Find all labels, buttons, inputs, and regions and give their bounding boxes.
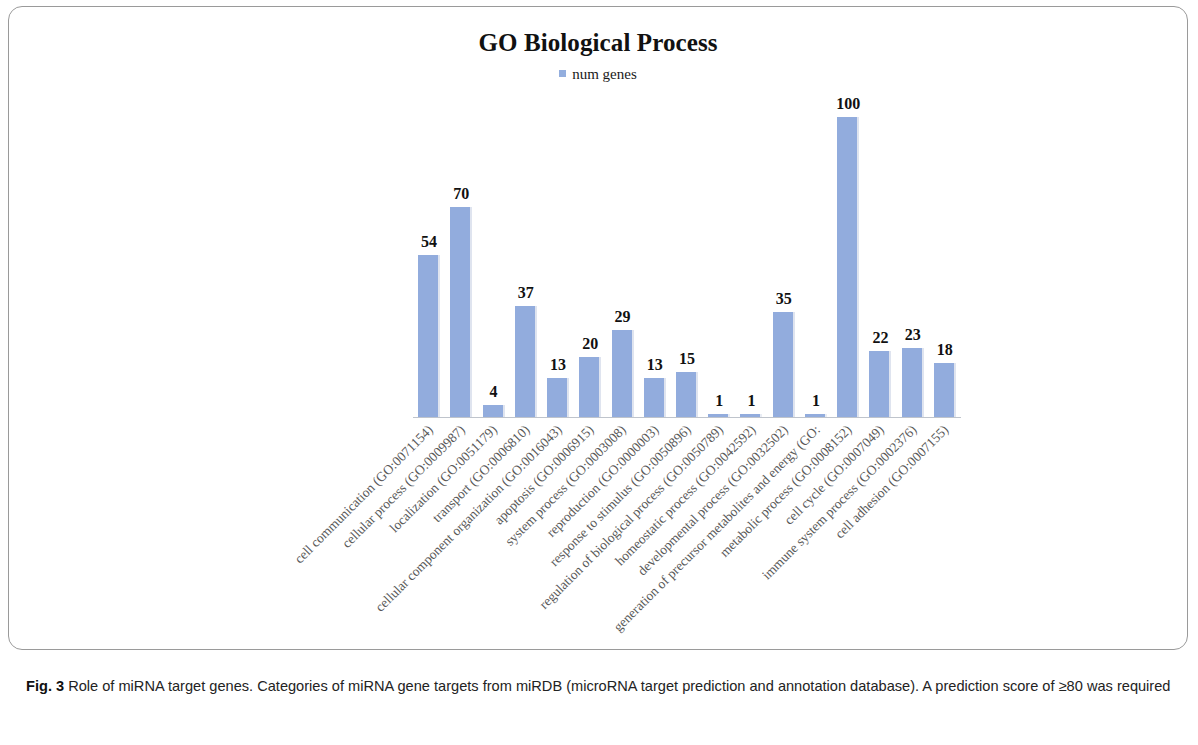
bar-value-label: 1 [715, 393, 723, 409]
bar-slot[interactable]: 35 [768, 93, 800, 417]
figure-caption-label: Fig. 3 [26, 678, 64, 694]
bar[interactable] [450, 207, 472, 417]
bar[interactable] [515, 306, 537, 417]
bar-slot[interactable]: 13 [639, 93, 671, 417]
bar-value-label: 20 [582, 336, 598, 352]
bar-value-label: 15 [679, 351, 695, 367]
chart-title: GO Biological Process [9, 29, 1187, 57]
bar-slot[interactable]: 22 [864, 93, 896, 417]
bar-value-label: 37 [518, 285, 534, 301]
bar[interactable] [773, 312, 795, 417]
bar-value-label: 29 [615, 309, 631, 325]
bar[interactable] [612, 330, 634, 417]
category-label: cell communication (GO:0071154) [291, 422, 436, 567]
bar-value-label: 100 [836, 96, 860, 112]
bar-slot[interactable]: 18 [929, 93, 961, 417]
bar-slot[interactable]: 54 [413, 93, 445, 417]
bar-group: 5470437132029131511351100222318 [413, 93, 961, 417]
legend-color-swatch [559, 70, 566, 77]
bar-value-label: 13 [550, 357, 566, 373]
bar[interactable] [676, 372, 698, 417]
bar[interactable] [902, 348, 924, 417]
bar-slot[interactable]: 70 [445, 93, 477, 417]
bar[interactable] [644, 378, 666, 417]
bar-value-label: 1 [747, 393, 755, 409]
bar-slot[interactable]: 23 [897, 93, 929, 417]
bar-value-label: 1 [812, 393, 820, 409]
bar-value-label: 13 [647, 357, 663, 373]
bar-value-label: 4 [490, 384, 498, 400]
bar-slot[interactable]: 29 [606, 93, 638, 417]
bar-slot[interactable]: 1 [800, 93, 832, 417]
legend-label-num-genes: num genes [572, 66, 637, 83]
bar-value-label: 35 [776, 291, 792, 307]
bar-slot[interactable]: 100 [832, 93, 864, 417]
plot-area: 5470437132029131511351100222318 [413, 93, 961, 418]
bar-slot[interactable]: 37 [510, 93, 542, 417]
bar-slot[interactable]: 1 [703, 93, 735, 417]
bar[interactable] [579, 357, 601, 417]
bar[interactable] [418, 255, 440, 417]
figure-caption-text: Role of miRNA target genes. Categories o… [68, 678, 1170, 694]
bar-slot[interactable]: 15 [671, 93, 703, 417]
bar[interactable] [934, 363, 956, 417]
figure-frame: GO Biological Process num genes 54704371… [8, 6, 1188, 650]
category-axis-line [413, 417, 961, 418]
bar-value-label: 22 [872, 330, 888, 346]
bar-value-label: 70 [453, 186, 469, 202]
bar-value-label: 18 [937, 342, 953, 358]
bar-slot[interactable]: 4 [477, 93, 509, 417]
bar[interactable] [837, 117, 859, 417]
bar[interactable] [483, 405, 505, 417]
bar[interactable] [869, 351, 891, 417]
bar[interactable] [547, 378, 569, 417]
bar-slot[interactable]: 1 [735, 93, 767, 417]
bar-slot[interactable]: 13 [542, 93, 574, 417]
chart-legend: num genes [9, 66, 1187, 83]
figure-caption: Fig. 3 Role of miRNA target genes. Categ… [26, 676, 1176, 698]
bar-slot[interactable]: 20 [574, 93, 606, 417]
bar-value-label: 23 [905, 327, 921, 343]
bar-value-label: 54 [421, 234, 437, 250]
category-axis-labels: cell communication (GO:0071154)cellular … [413, 420, 961, 650]
